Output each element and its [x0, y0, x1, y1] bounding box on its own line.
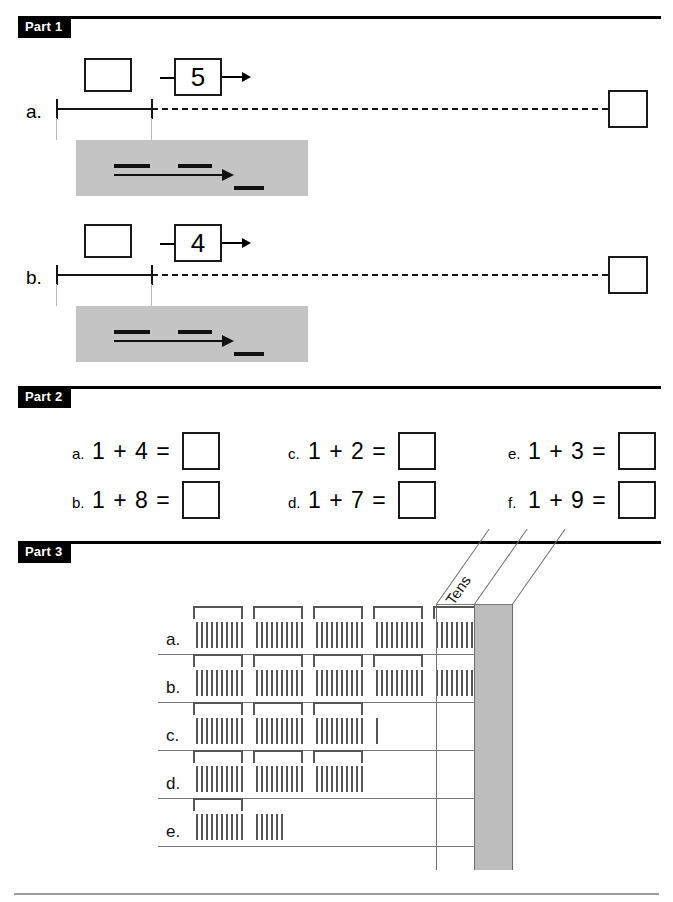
part1-row-a-operator-stem	[160, 77, 174, 79]
legend-arrow-line	[114, 340, 226, 342]
tally-mark	[396, 622, 398, 648]
ones-column-fill	[474, 604, 512, 870]
tally-mark	[236, 718, 238, 744]
tally-mark	[286, 718, 288, 744]
tens-answer-cell[interactable]	[436, 804, 474, 852]
tally-mark	[271, 670, 273, 696]
part2-problem-d-expression: 1 + 7 =	[308, 487, 387, 514]
part2-problem-a-expression: 1 + 4 =	[92, 438, 171, 465]
tally-mark	[301, 622, 303, 648]
tally-mark	[376, 670, 378, 696]
tally-mark	[351, 718, 353, 744]
tally-mark	[326, 718, 328, 744]
tally-mark	[286, 766, 288, 792]
tally-mark	[296, 670, 298, 696]
tally-mark	[336, 670, 338, 696]
tally-mark	[361, 766, 363, 792]
place-value-row-label: e.	[166, 822, 180, 842]
tally-mark	[351, 622, 353, 648]
tally-mark	[326, 670, 328, 696]
part2-problem-f-answer-box[interactable]	[618, 481, 656, 519]
group-bracket	[313, 750, 363, 763]
tens-answer-cell[interactable]	[436, 660, 474, 708]
tally-mark	[406, 670, 408, 696]
part1-row-a-start-box[interactable]	[84, 58, 132, 92]
tally-mark	[341, 622, 343, 648]
tally-mark	[326, 766, 328, 792]
tens-answer-cell[interactable]	[436, 756, 474, 804]
tally-mark	[211, 766, 213, 792]
part2-problem-e-answer-box[interactable]	[618, 432, 656, 470]
loose-tally-mark	[276, 814, 278, 840]
tally-mark	[381, 670, 383, 696]
tally-mark	[236, 766, 238, 792]
footer-rule	[14, 893, 659, 895]
tally-mark	[386, 670, 388, 696]
legend-blank-mark-1	[114, 330, 150, 334]
part2-problem-a-answer-box[interactable]	[182, 432, 220, 470]
tally-mark	[346, 670, 348, 696]
part1-row-a-end-box[interactable]	[608, 90, 648, 128]
tally-mark	[346, 766, 348, 792]
tally-mark	[211, 622, 213, 648]
part1-row-b-end-box[interactable]	[608, 256, 648, 294]
tally-mark	[401, 670, 403, 696]
tally-mark	[276, 718, 278, 744]
place-value-row-label: d.	[166, 774, 180, 794]
part2-problem-c-expression: 1 + 2 =	[308, 438, 387, 465]
place-value-row-label: b.	[166, 678, 180, 698]
part1-rule	[18, 16, 661, 19]
tally-mark	[266, 766, 268, 792]
tally-mark	[226, 814, 228, 840]
part2-problem-c-answer-box[interactable]	[398, 432, 436, 470]
tally-mark	[196, 622, 198, 648]
tally-mark	[216, 718, 218, 744]
tally-mark	[316, 718, 318, 744]
tally-mark	[261, 670, 263, 696]
part1-row-a-arrow-line	[222, 76, 244, 78]
part1-row-a-numberline-dashed	[152, 108, 608, 110]
tally-mark	[226, 670, 228, 696]
part1-row-b-operator-stem	[160, 243, 174, 245]
place-value-row-label: c.	[166, 726, 179, 746]
loose-tally-mark	[256, 814, 258, 840]
tally-mark	[341, 766, 343, 792]
group-bracket	[313, 702, 363, 715]
tally-mark	[296, 718, 298, 744]
tally-mark	[226, 622, 228, 648]
group-bracket	[253, 606, 303, 619]
tally-mark	[226, 766, 228, 792]
part1-header: Part 1	[0, 16, 673, 46]
tally-mark	[216, 814, 218, 840]
part2-problem-b-expression: 1 + 8 =	[92, 487, 171, 514]
tally-mark	[331, 766, 333, 792]
part2-problem-e-expression: 1 + 3 =	[528, 438, 607, 465]
tally-mark	[391, 670, 393, 696]
part1-row-a-legend-panel	[76, 140, 308, 196]
tally-mark	[291, 766, 293, 792]
tally-mark	[406, 622, 408, 648]
tally-mark	[276, 670, 278, 696]
tally-mark	[361, 670, 363, 696]
part2-problem-d-answer-box[interactable]	[398, 481, 436, 519]
tally-mark	[221, 670, 223, 696]
part1-row-b-start-box[interactable]	[84, 224, 132, 258]
tally-mark	[196, 670, 198, 696]
tally-mark	[241, 814, 243, 840]
group-bracket	[253, 654, 303, 667]
group-bracket	[193, 750, 243, 763]
tally-mark	[201, 718, 203, 744]
tally-mark	[256, 766, 258, 792]
tally-mark	[221, 814, 223, 840]
tally-mark	[356, 622, 358, 648]
part2-problem-b-answer-box[interactable]	[182, 481, 220, 519]
tally-mark	[201, 814, 203, 840]
tens-answer-cell[interactable]	[436, 612, 474, 660]
group-bracket	[373, 654, 423, 667]
tally-mark	[221, 766, 223, 792]
tally-mark	[236, 670, 238, 696]
tally-mark	[356, 766, 358, 792]
tally-mark	[326, 622, 328, 648]
tens-answer-cell[interactable]	[436, 708, 474, 756]
tally-mark	[286, 622, 288, 648]
